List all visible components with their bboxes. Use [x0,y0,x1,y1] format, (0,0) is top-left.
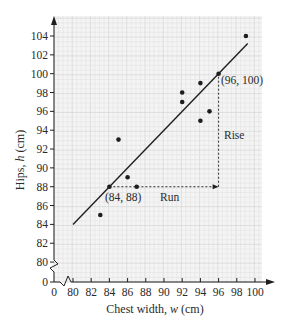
y-tick-label: 100 [31,68,49,80]
y-tick-label: 86 [37,200,49,212]
data-point [198,81,203,86]
y-tick-label: 0 [42,276,48,288]
x-tick-label: 86 [122,286,134,298]
data-point [116,137,121,142]
x-tick-label: 94 [195,286,207,298]
scatter-chart: 0808284868890929496981000808284868890929… [0,0,286,332]
x-tick-label: 100 [246,286,264,298]
data-point [244,34,249,39]
x-tick-label: 82 [85,286,97,298]
x-tick-label: 0 [51,286,57,298]
y-axis-label: Hips, h (cm) [13,130,27,190]
data-point [98,213,103,218]
point2-label: (96, 100) [221,74,263,87]
y-tick-label: 94 [37,124,49,136]
data-point [134,184,139,189]
x-tick-label: 88 [140,286,152,298]
x-axis-arrow-icon [266,279,275,285]
data-point [180,90,185,95]
y-tick-label: 92 [37,143,49,155]
data-point [207,109,212,114]
run-label: Run [160,191,179,203]
x-tick-label: 92 [176,286,188,298]
y-tick-label: 104 [31,30,49,42]
x-tick-label: 96 [213,286,225,298]
x-tick-label: 98 [231,286,243,298]
x-tick-label: 84 [104,286,116,298]
y-tick-label: 80 [37,256,49,268]
y-tick-label: 88 [37,181,49,193]
point1-label: (84, 88) [105,191,142,204]
data-point [180,100,185,105]
y-tick-label: 84 [37,218,49,230]
data-point [125,175,130,180]
y-tick-label: 96 [37,105,49,117]
x-axis-label: Chest width, w (cm) [106,302,203,316]
data-point [198,118,203,123]
y-tick-label: 102 [31,49,49,61]
rise-label: Rise [224,129,244,141]
y-tick-label: 90 [37,162,49,174]
x-tick-label: 80 [67,286,79,298]
y-tick-label: 98 [37,87,49,99]
x-tick-label: 90 [158,286,170,298]
y-tick-label: 82 [37,237,49,249]
data-point [107,184,112,189]
